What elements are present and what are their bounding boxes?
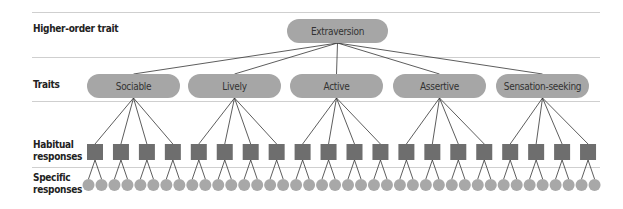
edge-trait-habitual [235, 98, 251, 144]
root-node [287, 19, 388, 43]
specific-response-node [459, 179, 471, 191]
edge-habitual-specific [114, 160, 121, 179]
edge-habitual-specific [562, 160, 569, 179]
specific-response-node [316, 179, 328, 191]
habitual-response-node [398, 144, 414, 160]
trait-node-label: Sociable [116, 81, 152, 92]
edge-habitual-specific [374, 160, 381, 179]
edge-habitual-specific [303, 160, 310, 179]
level-label-specific-line1: Specific [33, 172, 82, 184]
specific-response-node [589, 179, 601, 191]
edge-trait-habitual [235, 98, 277, 144]
habitual-response-node [580, 144, 596, 160]
edge-habitual-specific [322, 160, 329, 179]
edge-habitual-specific [400, 160, 407, 179]
habitual-response-node [450, 144, 466, 160]
habitual-response-node [139, 144, 155, 160]
level-label-habitual-line2: responses [33, 151, 82, 163]
specific-response-node [83, 179, 95, 191]
specific-response-node [264, 179, 276, 191]
habitual-response-node [476, 144, 492, 160]
habitual-response-node [372, 144, 388, 160]
edge-trait-habitual [121, 98, 134, 144]
edge-trait-habitual [440, 98, 459, 144]
edge-habitual-specific [192, 160, 199, 179]
specific-response-node [251, 179, 263, 191]
habitual-response-node [113, 144, 129, 160]
level-label-habitual: Habitual responses [33, 139, 82, 163]
level-label-higher-order: Higher-order trait [33, 23, 118, 35]
specific-response-node [368, 179, 380, 191]
trait-node-label: Sensation-seeking [504, 81, 581, 92]
specific-response-node [121, 179, 133, 191]
specific-response-node [329, 179, 341, 191]
specific-response-node [550, 179, 562, 191]
edge-trait-habitual [440, 98, 485, 144]
edge-habitual-specific [244, 160, 251, 179]
edge-habitual-specific [355, 160, 362, 179]
specific-response-node [472, 179, 484, 191]
specific-response-node [342, 179, 354, 191]
specific-response-node [511, 179, 523, 191]
specific-response-node [186, 179, 198, 191]
edge-trait-habitual [510, 98, 542, 144]
edge-trait-habitual [543, 98, 563, 144]
habitual-response-node [347, 144, 363, 160]
edge-habitual-specific [173, 160, 180, 179]
edge-trait-habitual [134, 98, 147, 144]
edge-trait-habitual [543, 98, 589, 144]
edge-habitual-specific [218, 160, 225, 179]
specific-response-node [537, 179, 549, 191]
edge-habitual-specific [484, 160, 491, 179]
level-label-specific-line2: responses [33, 184, 82, 196]
edge-trait-habitual [406, 98, 439, 144]
edge-trait-habitual [337, 98, 355, 144]
habitual-response-node [424, 144, 440, 160]
edge-root-trait [337, 43, 338, 74]
specific-response-node [407, 179, 419, 191]
specific-response-node [225, 179, 237, 191]
edge-habitual-specific [277, 160, 284, 179]
habitual-response-node [554, 144, 570, 160]
specific-response-node [160, 179, 172, 191]
level-dividers [32, 13, 600, 168]
edge-habitual-specific [140, 160, 147, 179]
habitual-response-node [321, 144, 337, 160]
trait-node-label: Active [323, 81, 350, 92]
edges [89, 43, 595, 179]
edge-trait-habitual [337, 98, 381, 144]
edge-habitual-specific [510, 160, 517, 179]
root-node-label: Extraversion [311, 26, 364, 37]
specific-response-node [96, 179, 108, 191]
trait-node-label: Assertive [420, 81, 460, 92]
trait-node [393, 74, 486, 98]
edge-habitual-specific [348, 160, 355, 179]
habitual-response-node [528, 144, 544, 160]
habitual-response-node [191, 144, 207, 160]
nodes: ExtraversionSociableLivelyActiveAssertiv… [83, 19, 601, 191]
trait-node [188, 74, 281, 98]
habitual-response-node [87, 144, 103, 160]
edge-habitual-specific [452, 160, 459, 179]
habitual-response-node [243, 144, 259, 160]
edge-habitual-specific [166, 160, 173, 179]
edge-habitual-specific [199, 160, 206, 179]
edge-habitual-specific [478, 160, 485, 179]
edge-habitual-specific [406, 160, 413, 179]
edge-trait-habitual [199, 98, 235, 144]
specific-response-node [381, 179, 393, 191]
level-label-traits: Traits [33, 79, 60, 91]
specific-response-node [485, 179, 497, 191]
specific-response-node [446, 179, 458, 191]
edge-habitual-specific [95, 160, 102, 179]
specific-response-node [355, 179, 367, 191]
habitual-response-node [217, 144, 233, 160]
specific-response-node [199, 179, 211, 191]
edge-habitual-specific [121, 160, 128, 179]
edge-root-trait [134, 43, 338, 74]
specific-response-node [576, 179, 588, 191]
specific-response-node [277, 179, 289, 191]
edge-habitual-specific [251, 160, 258, 179]
edge-habitual-specific [504, 160, 511, 179]
specific-response-node [433, 179, 445, 191]
